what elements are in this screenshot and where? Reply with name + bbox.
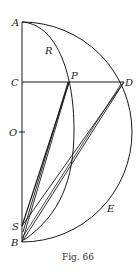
- semicircle-ADEB: [22, 22, 132, 242]
- line-PB: [22, 82, 69, 242]
- label-C: C: [11, 77, 19, 88]
- label-S: S: [12, 221, 19, 232]
- figure-caption: Fig. 66: [62, 252, 94, 262]
- line-DB-2: [22, 84, 121, 238]
- label-D: D: [124, 77, 133, 88]
- geometry-figure: A R C P D O S B E Fig. 66: [0, 0, 140, 272]
- label-A: A: [11, 17, 19, 28]
- label-B: B: [10, 237, 18, 248]
- line-PS-2: [23, 82, 68, 232]
- label-R: R: [44, 45, 53, 56]
- label-P: P: [70, 70, 78, 81]
- label-O: O: [9, 127, 17, 138]
- label-E: E: [106, 203, 115, 214]
